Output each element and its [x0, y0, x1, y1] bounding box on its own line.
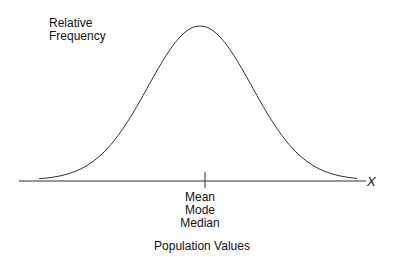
x-axis-label: Population Values	[147, 240, 257, 253]
median-label: Median	[170, 217, 230, 230]
chart: Relative Frequency X Mean Mode Median Po…	[0, 0, 399, 257]
normal-curve	[39, 26, 357, 179]
center-labels: Mean Mode Median	[170, 191, 230, 230]
x-axis-symbol: X	[367, 175, 376, 188]
y-label-line2: Frequency	[49, 30, 106, 43]
y-axis-label: Relative Frequency	[49, 17, 106, 43]
